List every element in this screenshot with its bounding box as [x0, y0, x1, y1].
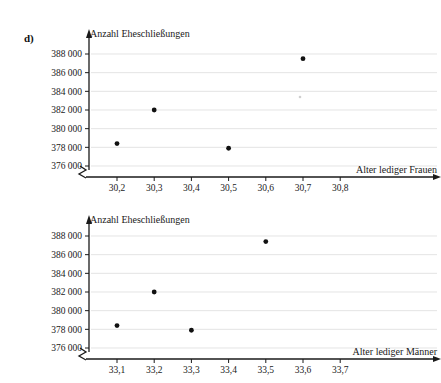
- x-tick-label: 30,6: [257, 183, 274, 193]
- x-tick-label: 30,3: [146, 183, 163, 193]
- chart-svg-top: d) 376 000378 000380 000382 000384 00038…: [0, 0, 441, 200]
- y-tick-label: 388 000: [51, 49, 82, 59]
- data-point: [226, 146, 231, 151]
- y-tick-label: 386 000: [51, 250, 82, 260]
- scatter-chart-maenner: 376 000378 000380 000382 000384 000386 0…: [0, 200, 441, 383]
- y-tick-label: 386 000: [51, 68, 82, 78]
- y-tick-label: 388 000: [51, 231, 82, 241]
- y-tick-label: 376 000: [51, 343, 82, 353]
- x-axis-title-top: Alter lediger Frauen: [356, 164, 437, 175]
- y-tick-label: 378 000: [51, 325, 82, 335]
- x-tick-label: 30,2: [109, 183, 126, 193]
- data-points-bottom: [115, 239, 269, 332]
- gridlines-top: [91, 54, 437, 166]
- data-point: [263, 239, 268, 244]
- x-tick-label: 33,2: [146, 365, 163, 375]
- data-point: [152, 108, 157, 113]
- y-tick-label: 378 000: [51, 143, 82, 153]
- x-tick-labels-bottom: 33,133,233,333,433,533,633,7: [109, 359, 349, 375]
- y-tick-label: 376 000: [51, 161, 82, 171]
- y-tick-label: 384 000: [51, 269, 82, 279]
- y-axis-top: [86, 29, 92, 170]
- part-label: d): [24, 32, 34, 45]
- scatter-chart-frauen: d) 376 000378 000380 000382 000384 00038…: [0, 0, 441, 200]
- y-tick-label: 382 000: [51, 287, 82, 297]
- x-tick-label: 33,1: [109, 365, 126, 375]
- x-axis-title-bottom: Alter lediger Männer: [353, 346, 438, 357]
- x-tick-label: 33,7: [332, 365, 349, 375]
- x-tick-label: 33,5: [257, 365, 274, 375]
- x-tick-labels-top: 30,230,330,430,530,630,730,8: [109, 177, 349, 193]
- y-tick-labels-top: 376 000378 000380 000382 000384 000386 0…: [51, 49, 89, 171]
- y-axis-title-bottom: Anzahl Eheschließungen: [90, 214, 190, 225]
- y-tick-label: 380 000: [51, 124, 82, 134]
- y-tick-label: 382 000: [51, 105, 82, 115]
- data-point: [301, 56, 306, 61]
- x-tick-label: 33,6: [295, 365, 312, 375]
- data-point: [152, 290, 157, 295]
- x-tick-label: 33,3: [183, 365, 200, 375]
- data-point: [189, 328, 194, 333]
- x-tick-label: 30,8: [332, 183, 349, 193]
- chart-svg-bottom: 376 000378 000380 000382 000384 000386 0…: [0, 200, 441, 383]
- y-tick-label: 384 000: [51, 87, 82, 97]
- y-tick-label: 380 000: [51, 306, 82, 316]
- x-tick-label: 30,7: [295, 183, 312, 193]
- data-points-top: [115, 56, 306, 150]
- gridlines-bottom: [91, 236, 437, 348]
- x-tick-label: 30,5: [220, 183, 237, 193]
- data-point: [115, 323, 120, 328]
- data-point: [115, 141, 120, 146]
- faint-artifact-mark: [299, 96, 302, 99]
- x-tick-label: 33,4: [220, 365, 237, 375]
- y-axis-title-top: Anzahl Eheschließungen: [90, 28, 190, 39]
- y-tick-labels-bottom: 376 000378 000380 000382 000384 000386 0…: [51, 231, 89, 353]
- x-tick-label: 30,4: [183, 183, 200, 193]
